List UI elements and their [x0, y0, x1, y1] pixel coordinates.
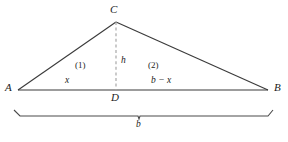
brace-path: [14, 110, 273, 119]
region-label-1: (1): [75, 61, 86, 70]
vertex-label-d: D: [111, 92, 119, 103]
segment-label-b-minus-x: b − x: [151, 76, 171, 86]
segment-cb: [116, 22, 268, 90]
vertex-label-b: B: [274, 82, 281, 93]
vertex-label-a: A: [5, 82, 12, 93]
base-brace-shape: [14, 110, 273, 119]
region-label-2: (2): [148, 61, 159, 70]
vertex-label-c: C: [110, 4, 117, 15]
segment-label-h: h: [121, 56, 126, 66]
brace-label-b: b: [136, 120, 141, 130]
segment-label-x: x: [65, 76, 69, 86]
triangle-diagram-canvas: [0, 0, 288, 142]
geometry-figure: A B C D x b − x h (1) (2) b: [0, 0, 288, 142]
